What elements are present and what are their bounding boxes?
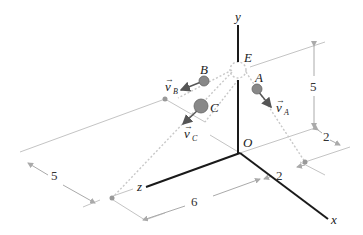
ball-B: [199, 76, 209, 86]
ball-A: [252, 84, 262, 94]
origin-label: O: [243, 135, 253, 150]
x-axis: [240, 153, 328, 219]
vB-arrow: [181, 82, 201, 90]
x-axis-label: x: [330, 212, 337, 227]
vA-label: v A →: [276, 95, 289, 117]
dim-bottom-length: 6: [191, 194, 198, 209]
svg-text:→: →: [276, 95, 285, 105]
axes: [146, 25, 328, 219]
y-axis-label: y: [233, 9, 241, 24]
point-A-label: A: [254, 70, 263, 85]
vB-label: v B →: [165, 74, 178, 96]
dim-height-right: 5: [310, 79, 317, 94]
point-C-label: C: [210, 100, 219, 115]
svg-text:→: →: [184, 121, 193, 131]
vC-label: v C →: [184, 121, 198, 143]
dim-left-width: 5: [51, 168, 58, 183]
svg-text:A: A: [283, 108, 289, 117]
z-axis: [146, 153, 240, 187]
dim-offset-right-bottom: 2: [276, 168, 283, 183]
svg-text:C: C: [192, 134, 198, 143]
diagram-canvas: y E A B C O z x v A → v B → v C → 5 2 2 …: [0, 0, 363, 235]
dim-offset-right-top: 2: [323, 129, 330, 144]
point-E-label: E: [243, 50, 252, 65]
svg-text:→: →: [165, 74, 174, 84]
z-axis-label: z: [136, 179, 142, 194]
ball-C: [194, 99, 208, 113]
svg-text:B: B: [173, 87, 178, 96]
point-B-label: B: [200, 62, 208, 77]
